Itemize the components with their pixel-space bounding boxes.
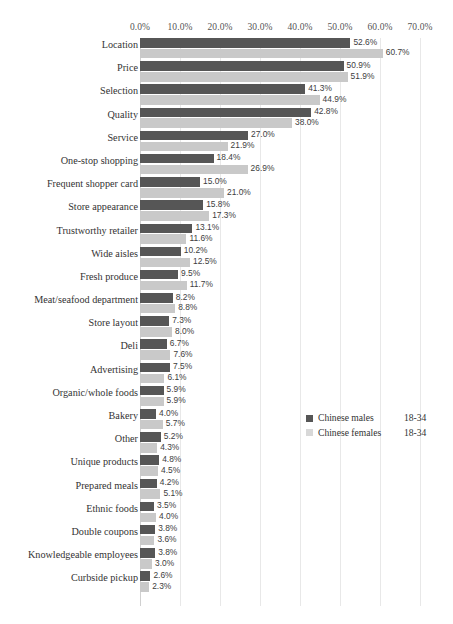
bar-rect-female bbox=[140, 304, 175, 314]
bar-value-label: 9.5% bbox=[181, 268, 200, 279]
category-label: Unique products bbox=[0, 455, 138, 468]
category-label: Meat/seafood department bbox=[0, 293, 138, 306]
bar-female: 4.5% bbox=[140, 466, 440, 476]
bar-value-label: 44.9% bbox=[323, 94, 347, 105]
category-label: Fresh produce bbox=[0, 270, 138, 283]
bar-group: 50.9%51.9% bbox=[140, 61, 440, 84]
bar-row: Service27.0%21.9% bbox=[0, 131, 453, 154]
x-axis-tick-label: 50.0% bbox=[327, 22, 352, 32]
bar-rect-female bbox=[140, 374, 164, 384]
x-axis-tick-label: 70.0% bbox=[407, 22, 432, 32]
bar-value-label: 2.3% bbox=[152, 581, 171, 592]
bar-value-label: 42.8% bbox=[314, 106, 338, 117]
bar-female: 8.8% bbox=[140, 304, 440, 314]
bar-value-label: 6.1% bbox=[167, 372, 186, 383]
bar-value-label: 2.6% bbox=[153, 570, 172, 581]
legend-age-range: 18-34 bbox=[404, 411, 426, 426]
bar-value-label: 10.2% bbox=[184, 245, 208, 256]
bar-rect-female bbox=[140, 559, 152, 569]
bar-rect-male bbox=[140, 177, 200, 187]
bar-rect-female bbox=[140, 582, 149, 592]
bar-male: 42.8% bbox=[140, 108, 440, 118]
bar-female: 6.1% bbox=[140, 374, 440, 384]
bar-female: 12.5% bbox=[140, 258, 440, 268]
bar-group: 2.6%2.3% bbox=[140, 571, 440, 594]
bar-row: Store appearance15.8%17.3% bbox=[0, 200, 453, 223]
x-axis-tick-label: 30.0% bbox=[247, 22, 272, 32]
bar-rect-male bbox=[140, 131, 248, 141]
bar-row: Deli6.7%7.6% bbox=[0, 339, 453, 362]
bar-value-label: 21.9% bbox=[231, 140, 255, 151]
bar-male: 2.6% bbox=[140, 571, 440, 581]
bar-value-label: 26.9% bbox=[251, 163, 275, 174]
category-label: Organic/whole foods bbox=[0, 386, 138, 399]
bar-rect-female bbox=[140, 142, 228, 152]
bar-value-label: 27.0% bbox=[251, 129, 275, 140]
bar-rect-male bbox=[140, 154, 214, 164]
bar-value-label: 51.9% bbox=[351, 71, 375, 82]
bar-female: 21.9% bbox=[140, 142, 440, 152]
bar-rect-female bbox=[140, 234, 186, 244]
bar-group: 5.9%5.9% bbox=[140, 386, 440, 409]
bar-value-label: 8.2% bbox=[176, 292, 195, 303]
bar-row: Quality42.8%38.0% bbox=[0, 108, 453, 131]
bar-rect-male bbox=[140, 270, 178, 280]
bar-group: 3.8%3.6% bbox=[140, 525, 440, 548]
bar-female: 5.1% bbox=[140, 489, 440, 499]
category-label: Curbside pickup bbox=[0, 571, 138, 584]
bar-rect-female bbox=[140, 513, 156, 523]
bar-value-label: 5.2% bbox=[164, 431, 183, 442]
bar-rect-male bbox=[140, 224, 192, 234]
bar-row: Unique products4.8%4.5% bbox=[0, 455, 453, 478]
bar-group: 10.2%12.5% bbox=[140, 247, 440, 270]
bar-group: 42.8%38.0% bbox=[140, 108, 440, 131]
bar-rect-male bbox=[140, 84, 305, 94]
bar-group: 8.2%8.8% bbox=[140, 293, 440, 316]
bar-value-label: 15.8% bbox=[206, 199, 230, 210]
legend-age-range: 18-34 bbox=[404, 426, 426, 441]
category-label: Ethnic foods bbox=[0, 502, 138, 515]
bar-value-label: 15.0% bbox=[203, 176, 227, 187]
bar-male: 3.8% bbox=[140, 525, 440, 535]
category-label: Other bbox=[0, 432, 138, 445]
bar-rect-female bbox=[140, 49, 383, 59]
bar-male: 7.5% bbox=[140, 363, 440, 373]
category-label: Frequent shopper card bbox=[0, 177, 138, 190]
bar-female: 4.3% bbox=[140, 443, 440, 453]
category-label: Knowledgeable employees bbox=[0, 548, 138, 561]
category-label: Wide aisles bbox=[0, 247, 138, 260]
bar-group: 9.5%11.7% bbox=[140, 270, 440, 293]
category-label: Bakery bbox=[0, 409, 138, 422]
bar-row: Meat/seafood department8.2%8.8% bbox=[0, 293, 453, 316]
bar-rect-female bbox=[140, 281, 187, 291]
bar-row: Advertising7.5%6.1% bbox=[0, 363, 453, 386]
bar-male: 13.1% bbox=[140, 224, 440, 234]
bar-rect-male bbox=[140, 38, 350, 48]
bar-row: Store layout7.3%8.0% bbox=[0, 316, 453, 339]
category-label: Service bbox=[0, 131, 138, 144]
bar-rect-male bbox=[140, 525, 155, 535]
category-label: Location bbox=[0, 38, 138, 51]
bar-value-label: 5.9% bbox=[167, 395, 186, 406]
bar-value-label: 52.6% bbox=[353, 37, 377, 48]
bar-male: 52.6% bbox=[140, 38, 440, 48]
bar-row: Knowledgeable employees3.8%3.0% bbox=[0, 548, 453, 571]
bar-rect-female bbox=[140, 420, 163, 430]
bar-value-label: 7.3% bbox=[172, 315, 191, 326]
bar-value-label: 12.5% bbox=[193, 256, 217, 267]
bar-female: 11.7% bbox=[140, 281, 440, 291]
bar-row: Frequent shopper card15.0%21.0% bbox=[0, 177, 453, 200]
bar-rect-male bbox=[140, 247, 181, 257]
category-label: Advertising bbox=[0, 363, 138, 376]
bar-rect-male bbox=[140, 200, 203, 210]
bar-rect-female bbox=[140, 165, 248, 175]
bar-row: Prepared meals4.2%5.1% bbox=[0, 479, 453, 502]
legend-swatch-icon bbox=[306, 415, 313, 422]
bar-rect-female bbox=[140, 489, 160, 499]
bar-value-label: 6.7% bbox=[170, 338, 189, 349]
bar-group: 3.8%3.0% bbox=[140, 548, 440, 571]
bar-rect-female bbox=[140, 397, 164, 407]
bar-row: Selection41.3%44.9% bbox=[0, 84, 453, 107]
bar-female: 60.7% bbox=[140, 49, 440, 59]
x-axis-tick-label: 40.0% bbox=[287, 22, 312, 32]
